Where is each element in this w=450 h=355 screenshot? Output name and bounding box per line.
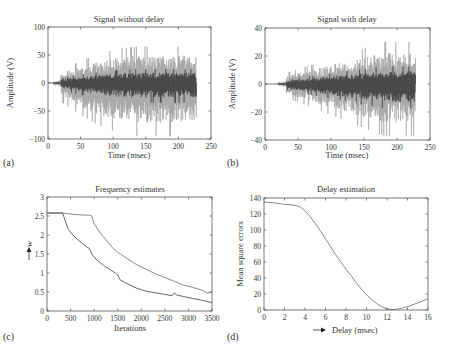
y-tick-label: 0.5 — [35, 288, 45, 297]
y-tick-label: 100 — [250, 226, 262, 235]
x-tick-label: 500 — [65, 314, 77, 323]
panel-label: (c) — [3, 331, 14, 343]
x-axis-label: Iterations — [114, 323, 146, 333]
x-tick-label: 16 — [424, 313, 432, 322]
x-tick-label: 1000 — [87, 314, 102, 323]
chart-title: Delay estimation — [317, 184, 376, 194]
chart-delay-estimation: Delay estimation 02468101214160204060801… — [227, 184, 432, 343]
y-tick-label: 2 — [40, 231, 44, 240]
chart-signal-without-delay: Signal without delay 050100150200250−100… — [3, 14, 217, 169]
x-tick-label: 200 — [391, 143, 403, 152]
x-tick-label: 250 — [424, 143, 436, 152]
x-tick-label: 3000 — [181, 314, 196, 323]
y-tick-label: 0 — [40, 307, 44, 316]
x-tick-label: 0 — [45, 314, 49, 323]
x-tick-label: 50 — [294, 143, 302, 152]
y-tick-label: 2.5 — [35, 212, 45, 221]
panel-label: (a) — [3, 157, 14, 169]
x-tick-label: 50 — [77, 142, 85, 151]
y-tick-label: −20 — [250, 108, 262, 117]
data-series — [264, 202, 428, 310]
panel-label: (b) — [227, 157, 239, 169]
y-tick-label: 3 — [40, 193, 44, 202]
plot-area: 0246810121416020406080100120140 — [250, 194, 432, 322]
axes-frame — [264, 198, 428, 310]
y-tick-label: 80 — [254, 242, 262, 251]
data-series — [48, 47, 197, 137]
arrow-up-icon — [27, 247, 32, 260]
y-tick-label: 40 — [255, 24, 263, 33]
x-tick-label: 8 — [344, 313, 348, 322]
y-tick-label: −100 — [30, 135, 46, 144]
x-tick-label: 0 — [262, 313, 266, 322]
x-tick-label: 2 — [283, 313, 287, 322]
y-tick-label: 1 — [40, 269, 44, 278]
y-tick-label: 120 — [250, 210, 262, 219]
y-tick-label: 140 — [250, 194, 262, 203]
x-tick-label: 3500 — [205, 314, 220, 323]
line-series — [47, 213, 212, 303]
y-tick-label: 60 — [254, 258, 262, 267]
y-tick-label: 40 — [254, 274, 262, 283]
x-axis-label-group: Delay (msec) — [313, 325, 378, 335]
x-tick-label: 12 — [383, 313, 391, 322]
plot-area: 050010001500200025003000350000.511.522.5… — [35, 193, 220, 323]
x-axis-label: Time (msec) — [108, 150, 151, 160]
x-tick-label: 250 — [205, 142, 217, 151]
y-axis-label: Amplitude (V) — [227, 59, 237, 109]
x-tick-label: 0 — [263, 143, 267, 152]
y-tick-label: 20 — [255, 52, 263, 61]
y-axis-label-group: w — [24, 240, 34, 260]
line-series — [47, 213, 212, 293]
y-tick-label: 100 — [34, 23, 46, 32]
x-tick-label: 0 — [46, 142, 50, 151]
x-tick-label: 10 — [363, 313, 371, 322]
y-tick-label: 0 — [257, 306, 261, 315]
data-series — [47, 213, 212, 303]
x-tick-label: 2000 — [134, 314, 149, 323]
panel-label: (d) — [227, 331, 239, 343]
y-tick-label: −40 — [250, 136, 262, 145]
arrow-right-icon — [313, 328, 326, 333]
y-tick-label: 1.5 — [35, 250, 45, 259]
chart-title: Signal without delay — [94, 14, 165, 24]
x-tick-label: 6 — [324, 313, 328, 322]
x-axis-label: Delay (msec) — [332, 325, 378, 335]
y-tick-label: −50 — [33, 107, 45, 116]
x-tick-label: 2500 — [157, 314, 172, 323]
x-tick-label: 200 — [173, 142, 185, 151]
y-tick-label: 0 — [258, 80, 262, 89]
y-tick-label: 50 — [38, 51, 46, 60]
x-tick-label: 1500 — [110, 314, 125, 323]
y-tick-label: 0 — [41, 79, 45, 88]
y-axis-label: w — [24, 240, 34, 247]
plot-area: 050100150200250−100−50050100 — [30, 23, 217, 151]
plot-area: 050100150200250−40−2002040 — [250, 24, 436, 152]
chart-title: Signal with delay — [317, 14, 377, 24]
chart-title: Frequency estimates — [95, 184, 165, 194]
chart-signal-with-delay: Signal with delay 050100150200250−40−200… — [227, 14, 436, 169]
figure: Signal without delay 050100150200250−100… — [0, 0, 450, 355]
y-axis-label: Mean square errors — [235, 221, 245, 287]
line-series — [264, 202, 428, 310]
x-tick-label: 14 — [404, 313, 412, 322]
y-axis-label: Amplitude (V) — [5, 58, 15, 108]
chart-frequency-estimates: Frequency estimates 05001000150020002500… — [3, 184, 220, 343]
x-tick-label: 4 — [303, 313, 307, 322]
x-axis-label: Time (msec) — [326, 150, 369, 160]
y-tick-label: 20 — [254, 290, 262, 299]
data-series — [265, 42, 416, 136]
